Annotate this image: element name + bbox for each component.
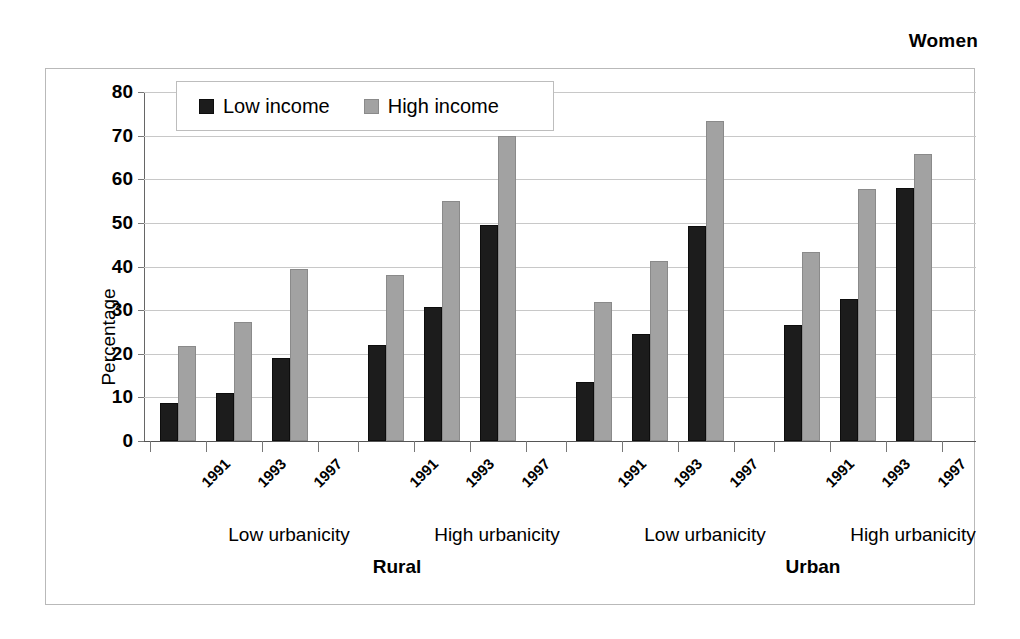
urbanicity-label: Low urbanicity — [228, 524, 349, 546]
x-axis-year-label: 1993 — [254, 455, 290, 491]
y-axis-title: Percentage — [98, 288, 120, 385]
legend-swatch-icon — [364, 99, 379, 114]
x-axis-year-label: 1991 — [198, 455, 234, 491]
x-axis-year-label: 1993 — [878, 455, 914, 491]
y-tick-label: 70 — [112, 125, 133, 147]
chart-frame: Percentage 01020304050607080 19911993199… — [45, 68, 975, 605]
x-axis-year-label: 1997 — [934, 455, 970, 491]
legend-item-low-income[interactable]: Low income — [199, 95, 330, 118]
bar-low-income — [688, 226, 706, 441]
bar-high-income — [442, 201, 460, 441]
urbanicity-label: High urbanicity — [850, 524, 976, 546]
y-tick-label: 50 — [112, 212, 133, 234]
bar-high-income — [858, 189, 876, 441]
bar-high-income — [706, 121, 724, 441]
plot-area: 01020304050607080 — [144, 92, 976, 441]
area-label: Rural — [373, 556, 422, 578]
chart-legend: Low income High income — [176, 81, 554, 131]
legend-label: Low income — [223, 95, 330, 118]
x-axis-year-label: 1993 — [670, 455, 706, 491]
x-axis-year-label: 1997 — [518, 455, 554, 491]
bar-low-income — [216, 393, 234, 441]
x-axis-year-label: 1997 — [726, 455, 762, 491]
bar-high-income — [386, 275, 404, 441]
legend-item-high-income[interactable]: High income — [364, 95, 499, 118]
bar-low-income — [576, 382, 594, 441]
bar-high-income — [914, 154, 932, 441]
x-axis-labels: 1991199319971991199319971991199319971991… — [144, 441, 976, 511]
figure-title: Women — [909, 30, 978, 52]
y-tick-label: 10 — [112, 386, 133, 408]
x-axis-year-label: 1991 — [822, 455, 858, 491]
bar-low-income — [160, 403, 178, 441]
bar-low-income — [784, 325, 802, 441]
bar-low-income — [480, 225, 498, 441]
urbanicity-label: Low urbanicity — [644, 524, 765, 546]
bar-low-income — [896, 188, 914, 441]
area-label: Urban — [786, 556, 841, 578]
bar-high-income — [290, 269, 308, 441]
bar-high-income — [498, 136, 516, 441]
legend-swatch-icon — [199, 99, 214, 114]
bar-high-income — [594, 302, 612, 441]
legend-label: High income — [388, 95, 499, 118]
bar-low-income — [840, 299, 858, 441]
y-tick-label: 60 — [112, 168, 133, 190]
x-axis-year-label: 1991 — [406, 455, 442, 491]
group-labels: Low urbanicityHigh urbanicityLow urbanic… — [91, 524, 1020, 604]
bar-high-income — [802, 252, 820, 441]
bar-low-income — [272, 358, 290, 441]
bar-low-income — [424, 307, 442, 441]
y-tick-label: 0 — [122, 430, 133, 452]
bar-high-income — [178, 346, 196, 441]
bar-low-income — [368, 345, 386, 441]
bars-layer — [144, 92, 976, 441]
urbanicity-label: High urbanicity — [434, 524, 560, 546]
x-axis-year-label: 1997 — [310, 455, 346, 491]
y-tick-label: 40 — [112, 256, 133, 278]
bar-high-income — [650, 261, 668, 441]
bar-low-income — [632, 334, 650, 441]
bar-high-income — [234, 322, 252, 441]
x-axis-year-label: 1991 — [614, 455, 650, 491]
x-axis-year-label: 1993 — [462, 455, 498, 491]
y-tick-label: 80 — [112, 81, 133, 103]
